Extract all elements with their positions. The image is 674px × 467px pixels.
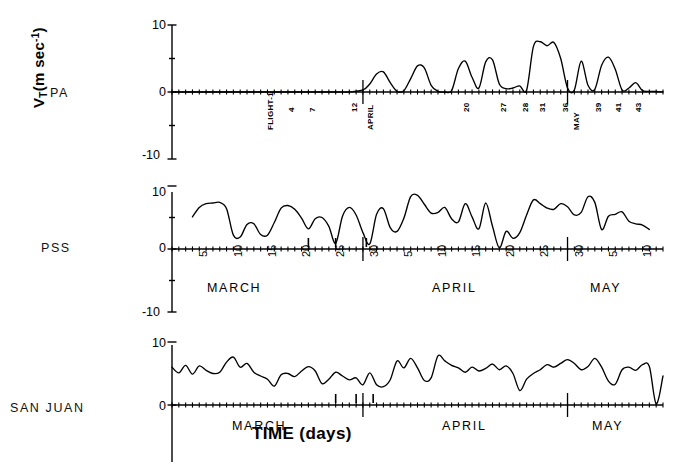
data-line-pss: [192, 194, 649, 248]
flight-label-7: 7: [308, 107, 317, 112]
day-label-pss-2: 15: [266, 245, 278, 257]
flight-label-27: 27: [499, 103, 508, 113]
flight-label-20: 20: [462, 103, 471, 113]
flight-label-may: MAY: [572, 112, 581, 130]
day-label-pss-6: 5: [402, 251, 414, 257]
flight-label-28: 28: [521, 103, 530, 113]
day-label-pss-10: 25: [538, 245, 550, 257]
flight-label-flight-1: FLIGHT-1: [266, 92, 275, 130]
figure-container: VT(m sec-1) PA PSS SAN JUAN 10 0 -10 10 …: [0, 0, 674, 467]
day-label-pss-1: 10: [232, 245, 244, 257]
flight-label-april: APRIL: [366, 105, 375, 131]
data-line-sanjuan: [172, 355, 663, 404]
day-label-pss-9: 20: [504, 245, 516, 257]
day-label-pss-11: 30: [573, 245, 585, 257]
flight-label-41: 41: [614, 103, 623, 113]
flight-label-31: 31: [538, 103, 547, 113]
flight-label-36: 36: [561, 103, 570, 113]
flight-label-39: 39: [594, 103, 603, 113]
day-label-pss-12: 5: [607, 251, 619, 257]
flight-label-4: 4: [287, 107, 296, 112]
day-label-pss-7: 10: [436, 245, 448, 257]
day-label-pss-3: 20: [300, 245, 312, 257]
day-label-pss-0: 5: [197, 251, 209, 257]
plot-canvas: [0, 0, 674, 467]
day-label-pss-13: 10: [641, 245, 653, 257]
data-line-pa: [172, 41, 663, 93]
flight-label-43: 43: [634, 103, 643, 113]
day-label-pss-5: 30: [368, 245, 380, 257]
day-label-pss-8: 15: [470, 245, 482, 257]
flight-label-12: 12: [350, 103, 359, 113]
day-label-pss-4: 25: [334, 245, 346, 257]
